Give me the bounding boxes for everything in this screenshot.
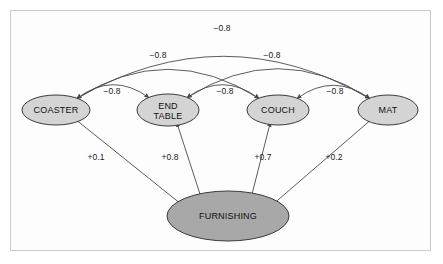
node-label: MAT xyxy=(379,105,398,115)
excitatory-weight-label: +0.8 xyxy=(162,152,179,162)
excitatory-weight-label: +0.7 xyxy=(255,152,272,162)
node-mat[interactable]: MAT xyxy=(358,95,418,125)
inhibitory-weight-label: −0.8 xyxy=(217,86,234,96)
node-couch[interactable]: COUCH xyxy=(247,95,309,125)
inhibitory-weight-label: −0.8 xyxy=(150,50,167,60)
diagram-stage: COASTERENDTABLECOUCHMATFURNISHING −0.8−0… xyxy=(0,0,443,264)
node-furnishing[interactable]: FURNISHING xyxy=(167,191,289,241)
node-coaster[interactable]: COASTER xyxy=(22,95,90,125)
inhibitory-weight-label: −0.8 xyxy=(214,23,231,33)
node-end_table[interactable]: ENDTABLE xyxy=(137,94,199,126)
node-label: COASTER xyxy=(34,105,79,115)
node-label: COUCH xyxy=(261,105,295,115)
inhibitory-weight-label: −0.8 xyxy=(104,86,121,96)
inhibitory-weight-label: −0.8 xyxy=(327,86,344,96)
node-label: FURNISHING xyxy=(199,211,257,221)
network-diagram-canvas: COASTERENDTABLECOUCHMATFURNISHING −0.8−0… xyxy=(0,0,443,264)
excitatory-edge xyxy=(275,118,374,203)
excitatory-edge xyxy=(177,123,200,195)
excitatory-weight-label: +0.2 xyxy=(326,152,343,162)
nodes-group: COASTERENDTABLECOUCHMATFURNISHING xyxy=(22,94,418,241)
excitatory-weight-label: +0.1 xyxy=(88,152,105,162)
edge-labels-group: −0.8−0.8−0.8−0.8−0.8−0.8+0.1+0.8+0.7+0.2 xyxy=(88,23,344,162)
inhibitory-weight-label: −0.8 xyxy=(264,50,281,60)
